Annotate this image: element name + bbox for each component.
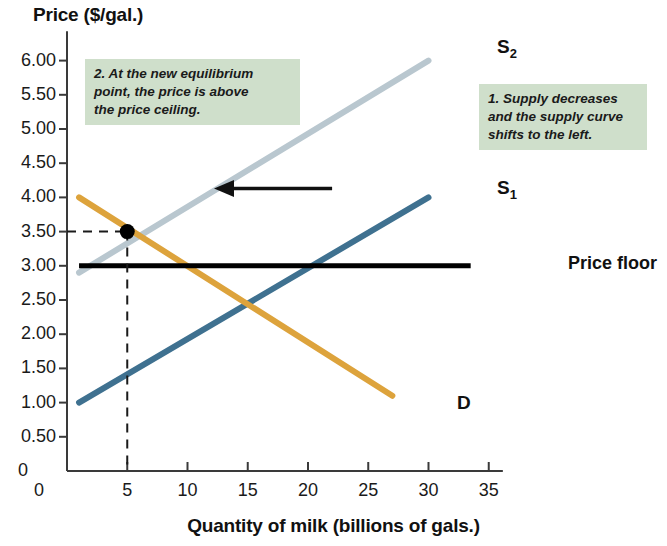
x-axis-tick-label: 15 bbox=[228, 481, 268, 499]
y-axis-tick-label: 4.50 bbox=[0, 153, 56, 171]
y-axis-tick-label: 1.00 bbox=[0, 393, 56, 411]
y-axis-tick-label: 4.00 bbox=[0, 187, 56, 205]
annotation-line: point, the price is above bbox=[94, 83, 291, 101]
annotation-supply-shift: 1. Supply decreases and the supply curve… bbox=[479, 84, 647, 150]
y-axis-tick-label: 3.50 bbox=[0, 222, 56, 240]
curve-label-s2-sub: 2 bbox=[510, 46, 517, 61]
y-axis-tick-label: 6.00 bbox=[0, 51, 56, 69]
annotation-line: 2. At the new equilibrium bbox=[94, 65, 291, 83]
x-axis-tick-label: 25 bbox=[348, 481, 388, 499]
y-axis-tick-label: 5.00 bbox=[0, 119, 56, 137]
y-axis-tick-label: 0 bbox=[18, 461, 54, 479]
curve-label-s2: S2 bbox=[497, 36, 517, 61]
y-axis-tick-label: 1.50 bbox=[0, 358, 56, 376]
y-axis-tick-label: 3.00 bbox=[0, 256, 56, 274]
x-axis-tick-label: 35 bbox=[469, 481, 509, 499]
y-axis-tick-label: 0.50 bbox=[0, 427, 56, 445]
x-axis-tick-label: 10 bbox=[168, 481, 208, 499]
x-axis-tick-label: 30 bbox=[409, 481, 449, 499]
annotation-line: 1. Supply decreases bbox=[488, 90, 638, 108]
x-axis-title: Quantity of milk (billions of gals.) bbox=[0, 515, 667, 537]
annotation-line: the price ceiling. bbox=[94, 101, 291, 119]
x-axis-tick-label: 5 bbox=[107, 481, 147, 499]
y-axis-tick-label: 5.50 bbox=[0, 85, 56, 103]
equilibrium-point-marker bbox=[120, 224, 135, 239]
annotation-line: shifts to the left. bbox=[488, 126, 638, 144]
annotation-line: and the supply curve bbox=[488, 108, 638, 126]
economics-supply-demand-chart: Price ($/gal.) 00.501.001.502.002.503.00… bbox=[0, 0, 667, 546]
y-axis-tick-label: 2.50 bbox=[0, 290, 56, 308]
curve-label-s1: S1 bbox=[497, 177, 517, 202]
curve-label-s2-base: S bbox=[497, 36, 510, 57]
curve-label-s1-base: S bbox=[497, 177, 510, 198]
y-axis-tick-label: 2.00 bbox=[0, 324, 56, 342]
curve-label-demand: D bbox=[457, 392, 471, 414]
curve-label-s1-sub: 1 bbox=[510, 187, 517, 202]
annotation-equilibrium-price: 2. At the new equilibrium point, the pri… bbox=[85, 59, 300, 125]
x-axis-tick-label: 20 bbox=[288, 481, 328, 499]
x-axis-tick-label: 0 bbox=[19, 481, 59, 499]
price-floor-label: Price floor bbox=[568, 253, 657, 274]
